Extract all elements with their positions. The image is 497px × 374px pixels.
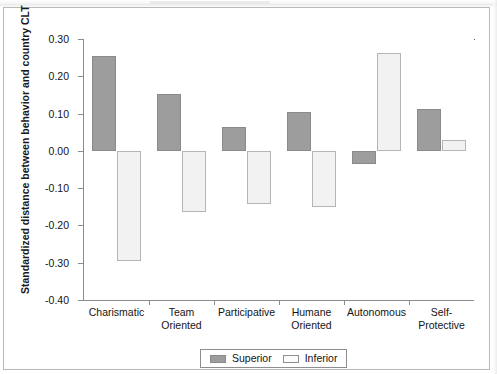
category-label: Participative [214, 306, 279, 319]
category-label-line: Participative [214, 306, 279, 319]
bar-group [279, 39, 344, 300]
category-separator [279, 300, 280, 305]
legend-label: Inferior [305, 353, 338, 364]
bar-group [409, 39, 474, 300]
y-axis-title: Standardized distance between behavior a… [12, 26, 38, 296]
category-label-line: Oriented [149, 319, 214, 332]
category-label-line: Protective [409, 319, 474, 332]
category-label: HumaneOriented [279, 306, 344, 332]
category-label-line: Team [149, 306, 214, 319]
bar-superior[interactable] [417, 109, 441, 151]
chart-figure: Standardized distance between behavior a… [3, 7, 490, 370]
y-tick-label: -0.10 [45, 183, 69, 193]
bar-superior[interactable] [352, 151, 376, 164]
bar-superior[interactable] [157, 94, 181, 151]
category-separator [344, 300, 345, 305]
y-tick-label: 0.20 [49, 71, 69, 81]
bar-superior[interactable] [222, 127, 246, 151]
category-separator [409, 300, 410, 305]
scan-artifact-top [0, 0, 497, 7]
category-label-line: Humane [279, 306, 344, 319]
bar-inferior[interactable] [247, 151, 271, 204]
category-label-line: Oriented [279, 319, 344, 332]
category-label-line: Self- [409, 306, 474, 319]
bar-inferior[interactable] [182, 151, 206, 213]
bar-group [344, 39, 409, 300]
chart-legend: SuperiorInferior [200, 349, 347, 368]
y-tick-label: -0.40 [45, 295, 69, 305]
category-label-line: Charismatic [84, 306, 149, 319]
bar-inferior[interactable] [377, 53, 401, 151]
category-label: Self-Protective [409, 306, 474, 332]
legend-label: Superior [232, 353, 272, 364]
legend-swatch-superior [210, 355, 226, 363]
bar-superior[interactable] [287, 112, 311, 151]
bar-inferior[interactable] [312, 151, 336, 207]
y-tick-label: -0.20 [45, 220, 69, 230]
legend-item[interactable]: Superior [210, 353, 272, 364]
y-axis-title-text: Standardized distance between behavior a… [19, 28, 32, 294]
category-label: Autonomous [344, 306, 409, 319]
category-separator [214, 300, 215, 305]
y-tick-label: 0.10 [49, 109, 69, 119]
category-separator [149, 300, 150, 305]
bar-group [214, 39, 279, 300]
legend-swatch-inferior [283, 355, 299, 363]
y-tick-label: 0.00 [49, 146, 69, 156]
scan-artifact-right-edge [493, 0, 497, 374]
bar-group [149, 39, 214, 300]
y-tick-label: 0.30 [49, 34, 69, 44]
bar-inferior[interactable] [442, 140, 466, 151]
category-label: Charismatic [84, 306, 149, 319]
bar-superior[interactable] [92, 56, 116, 151]
category-label: TeamOriented [149, 306, 214, 332]
y-tick-label: -0.30 [45, 258, 69, 268]
y-tick: -0.40 [78, 300, 84, 301]
category-label-line: Autonomous [344, 306, 409, 319]
plot-area: 0.300.200.100.00-0.10-0.20-0.30-0.40 [84, 39, 474, 300]
x-axis-category-labels: CharismaticTeamOrientedParticipativeHuma… [84, 306, 474, 340]
bar-inferior[interactable] [117, 151, 141, 261]
bar-group [84, 39, 149, 300]
legend-item[interactable]: Inferior [283, 353, 338, 364]
